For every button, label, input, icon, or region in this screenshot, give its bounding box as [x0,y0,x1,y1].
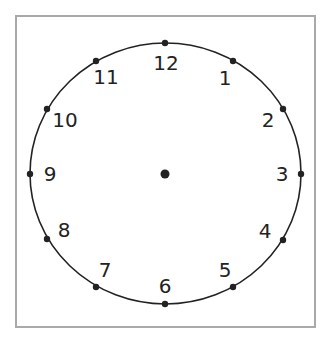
numeral-2: 2 [262,108,275,132]
dot-5 [230,284,236,290]
dot-4 [280,237,286,243]
numeral-4: 4 [259,219,272,243]
dot-1 [230,58,236,64]
numeral-5: 5 [219,258,232,282]
numeral-1: 1 [219,66,232,90]
dot-8 [44,236,50,242]
dot-9 [27,171,33,177]
dot-6 [162,301,168,307]
numeral-7: 7 [99,258,112,282]
clock-face: 12 1 2 3 4 5 6 7 8 9 10 11 [0,0,324,338]
dot-7 [93,284,99,290]
numeral-6: 6 [159,274,172,298]
dot-11 [93,58,99,64]
numeral-8: 8 [58,218,71,242]
numeral-11: 11 [93,65,118,89]
dot-3 [298,171,304,177]
center-pivot [161,170,170,179]
numeral-10: 10 [52,108,77,132]
numeral-12: 12 [153,51,178,75]
numeral-9: 9 [44,162,57,186]
numeral-3: 3 [276,162,289,186]
dot-2 [280,106,286,112]
dot-10 [44,106,50,112]
dot-12 [162,40,168,46]
